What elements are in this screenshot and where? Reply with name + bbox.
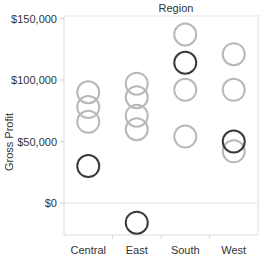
data-point-marker [223, 79, 245, 101]
chart-title: Region [159, 2, 194, 14]
data-point-marker [77, 111, 99, 133]
data-point-marker [126, 212, 148, 234]
data-points [77, 23, 245, 233]
data-point-marker [174, 79, 196, 101]
data-point-marker [223, 43, 245, 65]
y-tick-label: $0 [45, 197, 57, 209]
x-tick-label: East [126, 244, 148, 256]
y-axis: $150,000$100,000$50,000$0 [11, 13, 64, 210]
data-point-marker [223, 131, 245, 153]
x-axis: CentralEastSouthWest [71, 244, 247, 256]
y-tick-label: $50,000 [17, 136, 57, 148]
scatter-chart: Region $150,000$100,000$50,000$0 Gross P… [0, 0, 260, 265]
x-tick-label: West [221, 244, 246, 256]
data-point-marker [77, 155, 99, 177]
x-tick-label: Central [71, 244, 106, 256]
data-point-marker [174, 52, 196, 74]
y-tick-label: $100,000 [11, 74, 57, 86]
y-axis-title: Gross Profit [3, 113, 15, 171]
plot-frame [64, 17, 258, 239]
x-tick-label: South [171, 244, 200, 256]
data-point-marker [174, 126, 196, 148]
data-point-marker [174, 23, 196, 45]
y-tick-label: $150,000 [11, 13, 57, 25]
data-point-marker [223, 140, 245, 162]
data-point-marker [126, 118, 148, 140]
data-point-marker [126, 73, 148, 95]
